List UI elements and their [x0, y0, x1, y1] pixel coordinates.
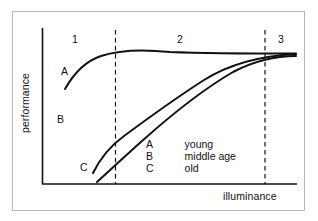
curve-tag-a: A — [61, 65, 68, 77]
legend-key-b: B — [146, 150, 154, 162]
plot-canvas — [0, 0, 318, 221]
legend: A B C young middle age old — [146, 138, 236, 174]
curve-a-young — [65, 50, 296, 89]
zone-label-1: 1 — [72, 33, 78, 45]
legend-keys: A B C — [146, 138, 154, 174]
legend-value-young: young — [185, 138, 236, 150]
x-axis-label: illuminance — [223, 190, 277, 202]
curve-tag-b: B — [57, 113, 64, 125]
legend-key-a: A — [146, 138, 154, 150]
legend-values: young middle age old — [185, 138, 236, 174]
legend-value-old: old — [185, 162, 236, 174]
zone-label-2: 2 — [177, 33, 183, 45]
zone-label-3: 3 — [278, 33, 284, 45]
curve-tag-c: C — [80, 161, 88, 173]
legend-key-c: C — [146, 162, 154, 174]
figure-container: performance illuminance 1 2 3 A B C A B … — [0, 0, 318, 221]
y-axis-label: performance — [19, 55, 31, 151]
legend-value-middle-age: middle age — [185, 150, 236, 162]
